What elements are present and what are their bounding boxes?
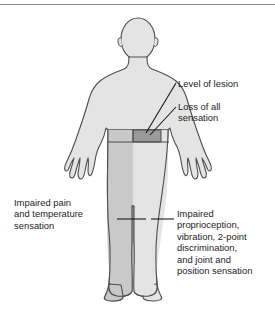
label-level-of-lesion: Level of lesion (178, 78, 238, 89)
impaired-pain-temperature-region (100, 130, 133, 305)
pain-temp-shade (100, 130, 133, 305)
head-shape (121, 18, 155, 60)
label-loss-of-all-sensation: Loss of all sensation (178, 101, 220, 124)
figure-container: Level of lesion Loss of all sensation Im… (0, 0, 275, 321)
label-impaired-pain-and-temperature-sensation: Impaired pain and temperature sensation (14, 197, 83, 231)
left-foot-shade (104, 284, 123, 301)
label-impaired-proprioception-sensation: Impaired proprioception, vibration, 2-po… (177, 208, 252, 276)
